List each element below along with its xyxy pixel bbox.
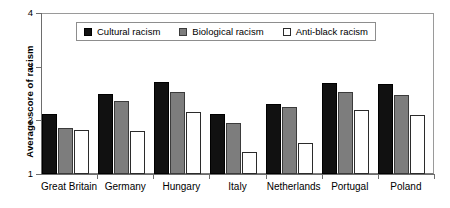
y-axis-tick bbox=[36, 120, 42, 121]
legend-swatch-icon bbox=[84, 28, 92, 36]
legend-item: Anti-black racism bbox=[283, 27, 368, 37]
chart-legend: Cultural racismBiological racismAnti-bla… bbox=[76, 22, 376, 41]
bar-chart: Average score of racism 1234 Great Brita… bbox=[0, 0, 450, 208]
y-axis-tick bbox=[36, 13, 42, 14]
x-axis-tick bbox=[266, 174, 267, 179]
x-axis-tick bbox=[153, 174, 154, 179]
x-axis-tick bbox=[322, 174, 323, 179]
x-axis-tick bbox=[97, 174, 98, 179]
y-axis-tick-label: 1 bbox=[0, 169, 33, 178]
y-axis-tick bbox=[36, 174, 42, 175]
y-axis-title: Average score of racism bbox=[24, 22, 35, 182]
legend-label: Cultural racism bbox=[97, 27, 160, 37]
y-axis-tick-label: 3 bbox=[0, 62, 33, 71]
y-axis-tick-label: 2 bbox=[0, 115, 33, 124]
legend-label: Biological racism bbox=[192, 27, 263, 37]
y-axis-line bbox=[41, 13, 42, 174]
y-axis-tick bbox=[36, 67, 42, 68]
legend-label: Anti-black racism bbox=[296, 27, 368, 37]
x-axis-line bbox=[41, 174, 434, 175]
legend-swatch-icon bbox=[283, 28, 291, 36]
legend-swatch-icon bbox=[179, 28, 187, 36]
x-axis-category-label: Poland bbox=[368, 181, 444, 193]
x-axis-tick bbox=[209, 174, 210, 179]
legend-item: Cultural racism bbox=[84, 27, 160, 37]
y-axis-tick-label: 4 bbox=[0, 8, 33, 17]
legend-item: Biological racism bbox=[179, 27, 263, 37]
x-axis-tick bbox=[434, 174, 435, 179]
x-axis-tick bbox=[378, 174, 379, 179]
